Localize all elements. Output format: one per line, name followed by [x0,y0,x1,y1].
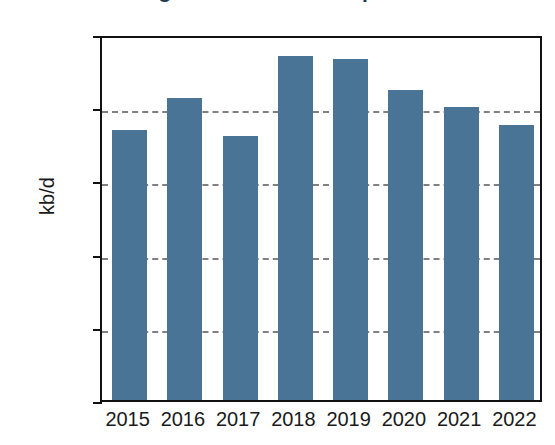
y-tick-mark [93,402,102,404]
x-tick-label: 2016 [153,408,213,431]
x-tick-label: 2019 [319,408,379,431]
y-axis-title: kb/d [36,156,59,236]
x-tick-label: 2017 [208,408,268,431]
x-tick-label: 2021 [429,408,489,431]
bar [112,130,147,400]
x-tick-label: 2018 [263,408,323,431]
bar-chart-figure: Figure 3. Crude Oil Imports kb/d 1100100… [0,0,555,445]
bar [444,107,479,400]
bar [333,59,368,400]
bar [167,98,202,400]
x-tick-label: 2020 [374,408,434,431]
bar [499,125,534,400]
chart-title: Figure 3. Crude Oil Imports [0,0,555,3]
x-tick-label: 2022 [484,408,544,431]
bar [278,56,313,400]
bar [223,136,258,400]
x-tick-label: 2015 [98,408,158,431]
plot-area [100,36,542,402]
bar [388,90,423,400]
